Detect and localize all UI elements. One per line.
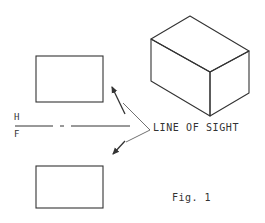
line-of-sight-arrows xyxy=(112,87,150,154)
box-top-face xyxy=(151,16,249,72)
drawing-canvas xyxy=(0,0,265,223)
figure-caption: Fig. 1 xyxy=(172,193,211,203)
isometric-box xyxy=(151,16,249,116)
top-view-rectangle xyxy=(36,56,103,102)
arrow-to-front-view xyxy=(113,141,125,154)
plane-label-h: H xyxy=(14,113,19,122)
plane-label-f: F xyxy=(14,130,19,139)
arrow-to-top-view xyxy=(112,87,125,114)
line-of-sight-label: LINE OF SIGHT xyxy=(153,123,239,133)
leader-line-lower xyxy=(126,130,150,142)
box-right-face xyxy=(210,51,249,116)
front-view-rectangle xyxy=(36,166,103,208)
box-left-face xyxy=(151,39,210,116)
